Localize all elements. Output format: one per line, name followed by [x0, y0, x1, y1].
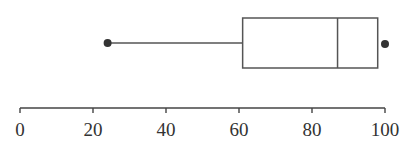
x-tick-label: 20: [84, 119, 103, 140]
x-tick-label: 100: [371, 119, 400, 140]
x-tick-label: 80: [303, 119, 322, 140]
x-axis: 020406080100: [15, 108, 399, 140]
box-plot-chart: 020406080100: [0, 0, 401, 148]
x-tick-label: 60: [230, 119, 249, 140]
box-plot: [104, 18, 389, 68]
x-tick-label: 40: [157, 119, 176, 140]
data-point: [381, 40, 389, 48]
data-point: [104, 39, 112, 47]
x-tick-label: 0: [15, 119, 25, 140]
iqr-box: [243, 18, 378, 68]
